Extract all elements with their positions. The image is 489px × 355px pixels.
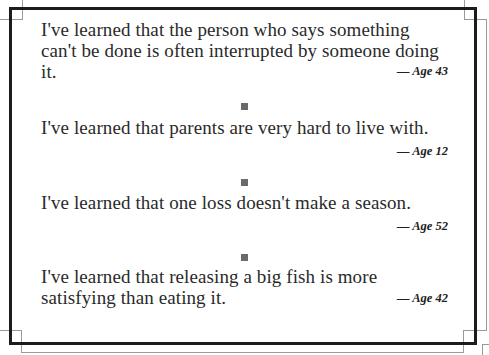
offset-line-bottom-horizontal bbox=[21, 352, 464, 353]
quote-text: I've learned that one loss doesn't make … bbox=[41, 192, 448, 213]
quote-text: I've learned that releasing a big fish i… bbox=[41, 266, 448, 308]
quote-attribution: — Age 12 bbox=[397, 144, 448, 159]
separator-square-icon bbox=[241, 103, 248, 110]
quote-attribution: — Age 52 bbox=[397, 219, 448, 234]
separator-square-icon bbox=[241, 179, 248, 186]
quote-attribution: — Age 43 bbox=[397, 64, 448, 79]
quote-text: I've learned that parents are very hard … bbox=[41, 117, 448, 138]
separator-square-icon bbox=[241, 254, 248, 261]
corner-line-bottom-right-small-vertical bbox=[482, 344, 483, 355]
quote-attribution: — Age 42 bbox=[397, 291, 448, 306]
corner-line-bottom-right-small-horizontal bbox=[482, 344, 489, 345]
quote-text: I've learned that the person who says so… bbox=[41, 19, 448, 82]
offset-line-right-vertical bbox=[486, 19, 487, 331]
